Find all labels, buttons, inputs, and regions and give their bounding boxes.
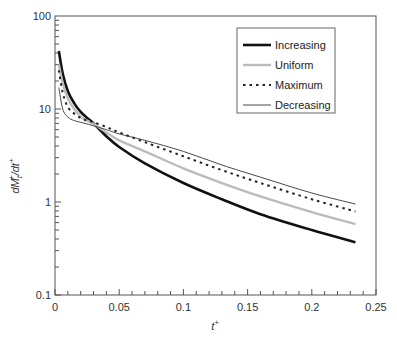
svg-text:Decreasing: Decreasing bbox=[275, 99, 331, 111]
x-axis-ticks bbox=[55, 289, 376, 295]
x-tick-label: 0 bbox=[52, 301, 58, 313]
chart: 0.1110100 00.050.10.150.20.25 t+ dMt+/dt… bbox=[0, 0, 397, 339]
y-tick-label: 0.1 bbox=[36, 289, 51, 301]
x-tick-label: 0.05 bbox=[108, 301, 129, 313]
y-axis-tick-labels: 0.1110100 bbox=[33, 10, 51, 301]
y-tick-label: 100 bbox=[33, 10, 51, 22]
svg-text:Maximum: Maximum bbox=[275, 79, 323, 91]
x-axis-title: t+ bbox=[211, 318, 219, 332]
x-tick-label: 0.2 bbox=[304, 301, 319, 313]
x-tick-label: 0.15 bbox=[237, 301, 258, 313]
svg-text:Increasing: Increasing bbox=[275, 39, 326, 51]
x-tick-label: 0.1 bbox=[176, 301, 191, 313]
y-tick-label: 10 bbox=[39, 103, 51, 115]
legend: Increasing Uniform Maximum Decreasing bbox=[237, 28, 335, 113]
x-axis-tick-labels: 00.050.10.150.20.25 bbox=[52, 301, 387, 313]
svg-text:Uniform: Uniform bbox=[275, 59, 314, 71]
x-tick-label: 0.25 bbox=[365, 301, 386, 313]
y-tick-label: 1 bbox=[45, 196, 51, 208]
y-axis-title: dMt+/dt+ bbox=[7, 158, 24, 193]
